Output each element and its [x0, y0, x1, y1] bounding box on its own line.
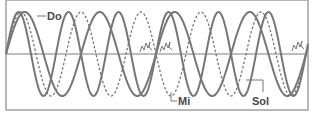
- noise-mark: [292, 41, 304, 51]
- noise-mark: [160, 42, 172, 52]
- label-do: Do: [47, 10, 62, 22]
- label-sol: Sol: [252, 95, 269, 107]
- noise-mark: [140, 42, 152, 52]
- label-mi: Mi: [178, 95, 190, 107]
- waveform-diagram: Do Mi Sol: [0, 0, 312, 123]
